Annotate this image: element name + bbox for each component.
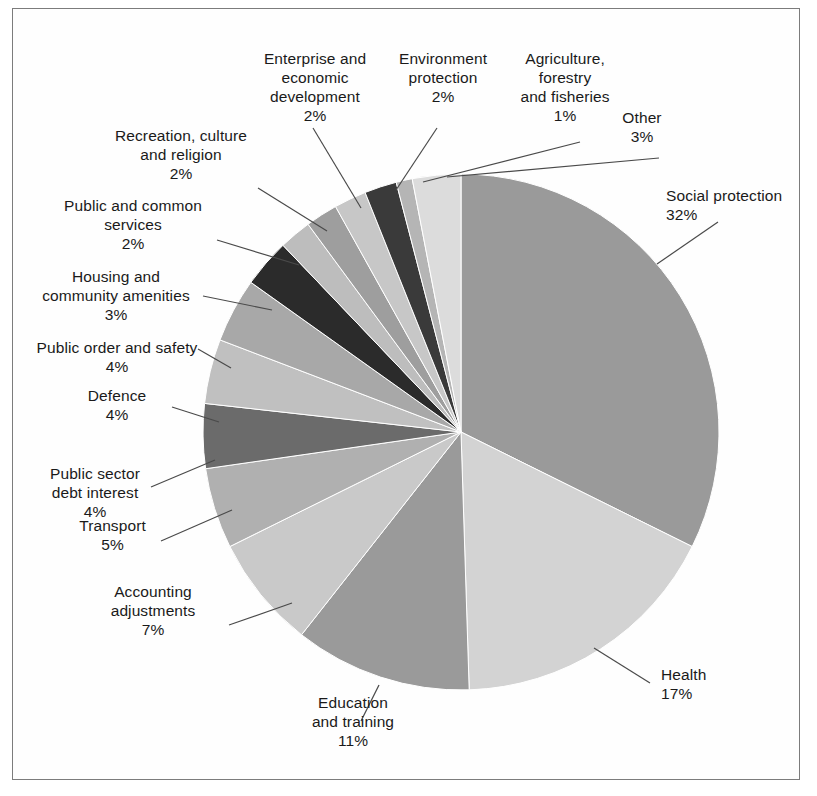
label-housing-and-community-amenities: Housing and community amenities 3% [27, 267, 205, 324]
label-enterprise-and-economic-development: Enterprise and economic development 2% [241, 49, 389, 125]
chart-page: Social protection 32% Health 17% Educati… [0, 0, 817, 796]
leader-line-social-protection [657, 222, 718, 264]
label-public-sector-debt-interest: Public sector debt interest 4% [35, 464, 155, 521]
pie-slice-group [203, 174, 719, 690]
label-public-order-and-safety: Public order and safety 4% [32, 338, 202, 376]
label-education-and-training: Education and training 11% [258, 693, 448, 750]
leader-line-debt-interest [151, 460, 215, 487]
label-social-protection: Social protection 32% [666, 186, 816, 224]
leader-line-agriculture [423, 142, 580, 182]
label-other: Other 3% [592, 108, 692, 146]
label-accounting-adjustments: Accounting adjustments 7% [73, 582, 233, 639]
label-environment-protection: Environment protection 2% [381, 49, 505, 106]
label-health: Health 17% [661, 665, 801, 703]
label-public-and-common-services: Public and common services 2% [49, 196, 217, 253]
label-transport: Transport 5% [60, 516, 165, 554]
leader-line-health [594, 648, 650, 683]
leader-line-recreation [258, 188, 327, 231]
leader-line-enterprise [313, 128, 361, 208]
label-defence: Defence 4% [62, 386, 172, 424]
label-recreation-culture-and-religion: Recreation, culture and religion 2% [101, 126, 261, 183]
